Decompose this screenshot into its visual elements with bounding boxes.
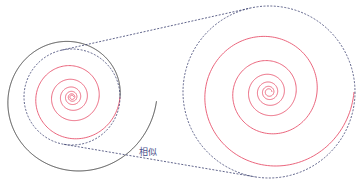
spiral-figure — [0, 0, 363, 186]
left-black-spiral-extension — [8, 41, 157, 171]
upper-tangent-dashed-line — [62, 8, 251, 50]
right-red-spiral — [205, 36, 354, 166]
similarity-diagram: 相似 — [0, 0, 363, 186]
similarity-label: 相似 — [139, 145, 157, 158]
left-dashed-circle — [24, 49, 120, 145]
left-red-spiral — [36, 66, 120, 139]
lower-tangent-dashed-line — [64, 144, 255, 176]
right-dashed-circle — [183, 6, 355, 178]
